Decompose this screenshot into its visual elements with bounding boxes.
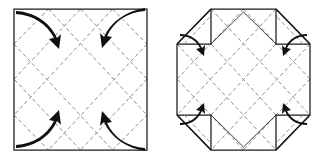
origami-diagram — [0, 0, 324, 163]
panel-left — [14, 8, 147, 151]
diagram-canvas — [0, 0, 324, 163]
square-face — [14, 9, 147, 150]
panel-right — [177, 9, 310, 150]
